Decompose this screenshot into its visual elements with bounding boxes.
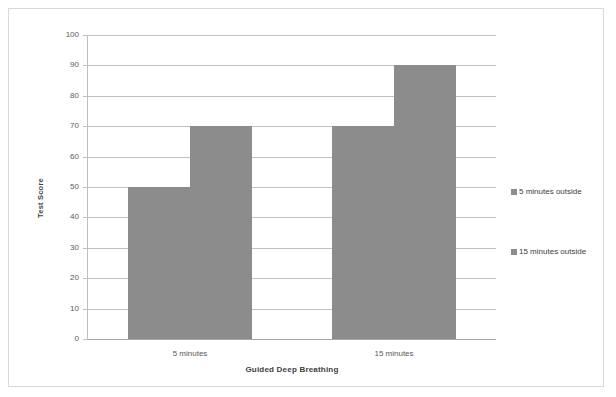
gridline: [88, 339, 496, 340]
plot-area: [88, 35, 496, 339]
y-axis-tick-label: 60: [19, 153, 79, 161]
y-axis-tick-label: 20: [19, 274, 79, 282]
x-axis-category-label: 5 minutes: [173, 349, 208, 358]
gridline: [88, 35, 496, 36]
chart-frame: Test Score 1009080706050403020100 5 minu…: [8, 8, 604, 387]
legend-swatch-icon: [511, 189, 517, 195]
y-axis-tick-label: 50: [19, 183, 79, 191]
y-axis-tick-label: 0: [19, 335, 79, 343]
y-axis-tick-label: 30: [19, 244, 79, 252]
y-axis-tick-label: 90: [19, 61, 79, 69]
y-axis-tick-label: 100: [19, 31, 79, 39]
y-axis-tick-label: 10: [19, 305, 79, 313]
legend-entry[interactable]: 15 minutes outside: [511, 247, 586, 256]
x-axis-title: Guided Deep Breathing: [88, 365, 496, 374]
bar: [332, 126, 394, 339]
y-axis-tick-labels: 1009080706050403020100: [13, 35, 79, 340]
legend-swatch-icon: [511, 249, 517, 255]
chart-legend: 5 minutes outside15 minutes outside: [503, 35, 603, 340]
legend-label: 5 minutes outside: [519, 187, 582, 196]
legend-entry[interactable]: 5 minutes outside: [511, 187, 582, 196]
y-axis-tick-label: 80: [19, 92, 79, 100]
y-axis-tick-label: 70: [19, 122, 79, 130]
bar: [128, 187, 190, 339]
x-axis-category-label: 15 minutes: [374, 349, 413, 358]
bar: [190, 126, 252, 339]
bar: [394, 65, 456, 339]
legend-label: 15 minutes outside: [519, 247, 586, 256]
y-axis-tick-label: 40: [19, 213, 79, 221]
